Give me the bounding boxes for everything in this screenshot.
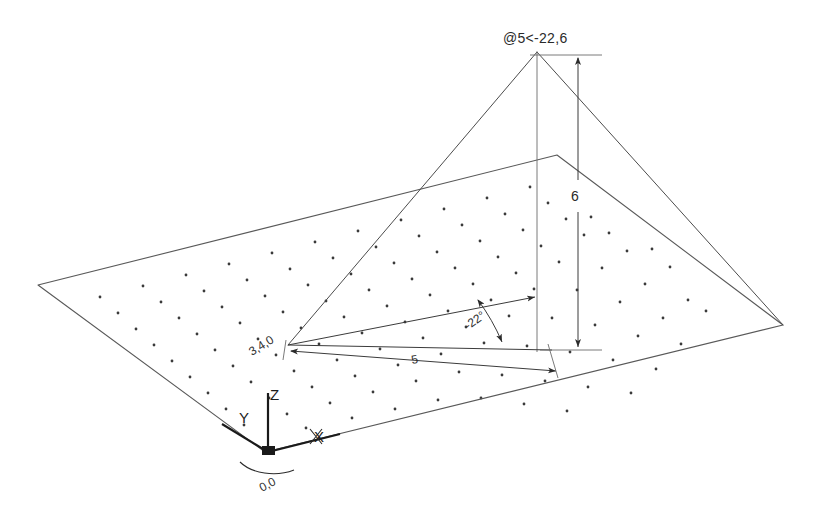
ucs-x-axis (268, 434, 340, 452)
base-point-label: 3,4,0 (246, 332, 276, 358)
ucs-y-axis (222, 424, 268, 452)
x-axis-label: X (314, 428, 324, 445)
ucs-origin-arc (240, 462, 294, 474)
polar-coordinate-label: @5<-22,6 (503, 30, 567, 46)
grid-dot-lattice (99, 186, 708, 430)
height-dimension (530, 55, 602, 350)
ucs-origin-block (262, 446, 275, 455)
radius-label: 5 (410, 352, 419, 367)
origin-label: 0,0 (257, 474, 279, 494)
z-axis-label: Z (270, 386, 279, 403)
construction-lines (288, 52, 783, 352)
cad-drawing-canvas: @5<-22,6 3,4,0 -22° 5 6 0,0 X Y Z (0, 0, 818, 530)
annotation-text-group: @5<-22,6 3,4,0 -22° 5 6 0,0 X Y Z (239, 30, 579, 495)
ground-plane-outline (38, 155, 783, 452)
angle-label: -22° (462, 308, 488, 332)
y-axis-label: Y (239, 409, 249, 426)
polar-ray-group (283, 297, 558, 378)
height-label: 6 (571, 188, 579, 204)
